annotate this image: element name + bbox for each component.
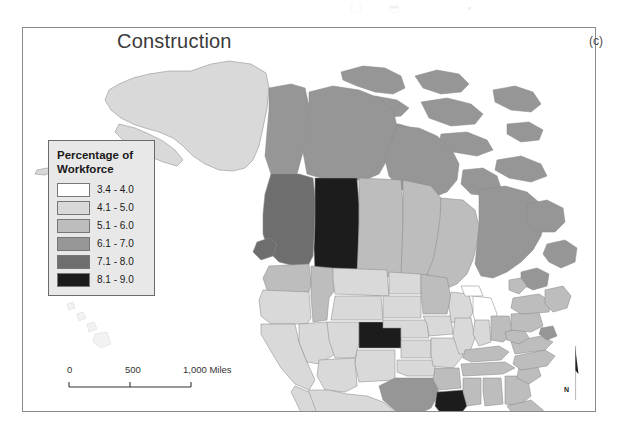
region-saskatchewan — [357, 178, 403, 277]
region-oklahoma — [397, 360, 435, 376]
region-british-columbia — [253, 174, 315, 266]
legend-title-line2: Workforce — [57, 162, 147, 176]
legend-entry: 6.1 - 7.0 — [57, 236, 147, 251]
scale-tick-0: 0 — [67, 364, 72, 375]
north-arrow-label: N — [564, 386, 569, 393]
region-south-dakota — [383, 296, 421, 318]
scale-bar-labels: 0 500 1,000 Miles — [67, 364, 227, 377]
scale-bar-graphic — [67, 381, 197, 391]
region-kansas — [401, 340, 431, 358]
scale-tick-500: 500 — [125, 364, 141, 375]
region-alberta — [314, 178, 359, 276]
legend-entry: 4.1 - 5.0 — [57, 200, 147, 215]
region-mississippi — [463, 378, 481, 406]
panel-letter: (c) — [589, 34, 603, 48]
region-indiana — [473, 320, 491, 346]
legend-swatch — [57, 273, 90, 287]
legend-entry-label: 7.1 - 8.0 — [97, 256, 134, 267]
region-alabama — [483, 378, 503, 406]
legend-entry-label: 4.1 - 5.0 — [97, 202, 134, 213]
header-artifact-marks — [330, 2, 610, 14]
region-maritimes — [509, 268, 549, 294]
region-hawaii-inset — [67, 302, 111, 348]
legend-entry-label: 8.1 - 9.0 — [97, 274, 134, 285]
region-new-mexico — [355, 350, 395, 382]
region-pennsylvania — [511, 312, 543, 332]
region-oregon — [259, 290, 311, 324]
legend-entry: 5.1 - 6.0 — [57, 218, 147, 233]
region-quebec-labrador — [475, 186, 565, 278]
region-minnesota — [421, 274, 451, 314]
region-yukon — [265, 84, 309, 178]
legend-swatch — [57, 255, 90, 269]
legend-title: Percentage of Workforce — [57, 148, 147, 176]
legend-entry: 7.1 - 8.0 — [57, 254, 147, 269]
legend-entry: 8.1 - 9.0 — [57, 272, 147, 287]
legend-entry-label: 5.1 - 6.0 — [97, 220, 134, 231]
scale-bar: 0 500 1,000 Miles — [67, 364, 227, 395]
region-arkansas — [433, 368, 461, 390]
legend-title-line1: Percentage of — [57, 148, 147, 162]
map-frame: .bd { stroke:#8c8c8c; stroke-width:0.55;… — [22, 27, 596, 412]
region-north-dakota — [389, 272, 421, 294]
legend-swatch — [57, 201, 90, 215]
figure-page: .bd { stroke:#8c8c8c; stroke-width:0.55;… — [0, 0, 617, 437]
scale-tick-1000: 1,000 Miles — [183, 364, 232, 375]
legend-swatch — [57, 183, 90, 197]
north-arrow-icon — [563, 344, 589, 402]
region-idaho — [311, 266, 335, 322]
region-louisiana — [435, 390, 467, 412]
legend-swatch — [57, 237, 90, 251]
legend-entry-label: 3.4 - 4.0 — [97, 184, 134, 195]
legend-entry: 3.4 - 4.0 — [57, 182, 147, 197]
region-tennessee — [461, 362, 515, 376]
region-washington — [263, 264, 311, 294]
region-new-england — [545, 286, 571, 312]
region-arizona — [317, 358, 357, 392]
legend-entry-label: 6.1 - 7.0 — [97, 238, 134, 249]
region-wyoming — [331, 296, 383, 320]
legend-swatch — [57, 219, 90, 233]
region-montana — [333, 268, 389, 296]
region-newfoundland — [543, 240, 577, 268]
map-title: Construction — [117, 30, 232, 53]
map-legend: Percentage of Workforce 3.4 - 4.0 4.1 - … — [48, 140, 155, 296]
